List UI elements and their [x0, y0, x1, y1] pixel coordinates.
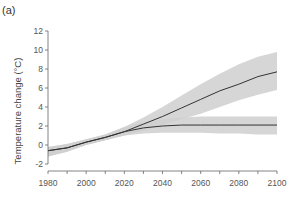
uncertainty-bands: [48, 52, 277, 156]
y-tick-label: 12: [34, 26, 44, 36]
y-axis-title: Temperature change (°C): [12, 58, 23, 165]
y-tick-label: -2: [35, 159, 43, 169]
x-tick-label: 2000: [77, 178, 96, 188]
x-tick-label: 2080: [229, 178, 248, 188]
x-axis: 1980200020202040206020802100: [39, 171, 287, 188]
x-tick-label: 2020: [115, 178, 134, 188]
y-tick-label: 8: [38, 64, 43, 74]
uncertainty-band-2: [48, 117, 277, 157]
y-tick-label: 0: [38, 140, 43, 150]
y-tick-label: 2: [38, 121, 43, 131]
temperature-chart: -2024681012 1980200020202040206020802100…: [0, 0, 301, 203]
y-tick-label: 4: [38, 102, 43, 112]
y-tick-label: 10: [34, 45, 44, 55]
x-tick-label: 2040: [153, 178, 172, 188]
x-tick-label: 1980: [39, 178, 58, 188]
y-axis: -2024681012: [34, 26, 48, 169]
y-tick-label: 6: [38, 83, 43, 93]
x-tick-label: 2060: [191, 178, 210, 188]
x-tick-label: 2100: [268, 178, 287, 188]
